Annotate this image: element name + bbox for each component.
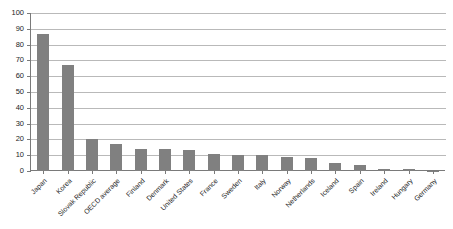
x-axis-label-slot: Japan <box>31 175 55 229</box>
x-axis-label-slot: Ireland <box>372 175 396 229</box>
bar-series <box>31 13 445 171</box>
bar <box>37 34 49 171</box>
x-axis-tick <box>165 171 166 174</box>
bar-slot <box>396 13 420 171</box>
bar <box>183 150 195 171</box>
bar-slot <box>372 13 396 171</box>
bar-slot <box>55 13 79 171</box>
bar <box>110 144 122 171</box>
y-axis-tick-label: 70 <box>0 56 24 64</box>
x-axis-tick <box>214 171 215 174</box>
bar <box>305 158 317 171</box>
bar-slot <box>202 13 226 171</box>
y-axis-tick-label: 10 <box>0 151 24 159</box>
x-axis-label-slot: Germany <box>421 175 445 229</box>
bar-slot <box>104 13 128 171</box>
x-axis-tick-label: Iceland <box>320 177 342 199</box>
bar-slot <box>421 13 445 171</box>
y-axis-tick-label: 90 <box>0 25 24 33</box>
y-axis-labels: 1009080706050403020100 <box>0 13 28 171</box>
x-axis-label-slot: Iceland <box>323 175 347 229</box>
bar-slot <box>153 13 177 171</box>
bar-slot <box>80 13 104 171</box>
x-axis-tick <box>287 171 288 174</box>
bar-slot <box>226 13 250 171</box>
x-axis-labels: JapanKoreaSlovak RepublicOECD averageFin… <box>31 175 445 229</box>
x-axis-label-slot: OECD average <box>104 175 128 229</box>
bar-chart: 1009080706050403020100 JapanKoreaSlovak … <box>0 0 453 229</box>
x-axis-tick <box>360 171 361 174</box>
x-axis-label-slot: Netherlands <box>299 175 323 229</box>
x-axis-tick-label: Italy <box>253 177 268 192</box>
bar <box>86 139 98 171</box>
bar <box>281 157 293 171</box>
bar <box>232 155 244 171</box>
bar-slot <box>177 13 201 171</box>
bar <box>159 149 171 171</box>
y-axis-tick-label: 100 <box>0 9 24 17</box>
y-axis-tick-label: 30 <box>0 120 24 128</box>
x-axis-tick-label: Finland <box>124 177 146 199</box>
x-axis-label-slot: France <box>202 175 226 229</box>
x-axis-tick <box>43 171 44 174</box>
x-axis-tick <box>433 171 434 174</box>
x-axis-tick <box>141 171 142 174</box>
x-axis-tick <box>409 171 410 174</box>
bar <box>329 163 341 171</box>
x-axis-tick-label: Ireland <box>369 177 390 198</box>
x-axis-tick <box>116 171 117 174</box>
bar-slot <box>323 13 347 171</box>
x-axis-tick <box>92 171 93 174</box>
x-axis-tick <box>311 171 312 174</box>
x-axis-tick <box>238 171 239 174</box>
bar <box>256 155 268 171</box>
bar <box>135 149 147 171</box>
x-axis-label-slot: United States <box>177 175 201 229</box>
bar-slot <box>275 13 299 171</box>
x-axis-label-slot: Sweden <box>226 175 250 229</box>
x-axis-tick-label: Spain <box>347 177 365 195</box>
x-axis-tick <box>189 171 190 174</box>
bar-slot <box>299 13 323 171</box>
x-axis-tick <box>68 171 69 174</box>
y-axis-tick-label: 60 <box>0 72 24 80</box>
x-axis-label-slot: Spain <box>348 175 372 229</box>
bar-slot <box>31 13 55 171</box>
x-axis-tick <box>384 171 385 174</box>
bar-slot <box>250 13 274 171</box>
y-axis-tick-label: 40 <box>0 104 24 112</box>
bar <box>62 65 74 171</box>
y-axis-tick-label: 50 <box>0 88 24 96</box>
bar-slot <box>128 13 152 171</box>
x-axis-tick <box>335 171 336 174</box>
y-axis-tick-label: 20 <box>0 135 24 143</box>
x-axis-label-slot: Italy <box>250 175 274 229</box>
x-axis-tick-label: Korea <box>54 177 73 196</box>
bar-slot <box>348 13 372 171</box>
y-axis-tick-label: 0 <box>0 167 24 175</box>
x-axis-tick <box>262 171 263 174</box>
y-axis-tick-label: 80 <box>0 41 24 49</box>
bar <box>208 154 220 171</box>
x-axis-tick-label: France <box>198 177 219 198</box>
x-axis-tick-label: Japan <box>30 177 49 196</box>
